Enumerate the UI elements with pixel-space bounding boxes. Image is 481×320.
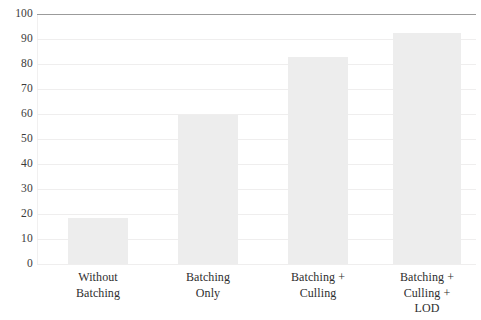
y-tick-label: 50 — [3, 133, 33, 145]
bar-chart: 100 90 80 70 60 50 40 30 20 10 0 Without… — [0, 0, 481, 320]
x-tick-label-line: Only — [153, 286, 263, 302]
x-tick-label-batching-culling: Batching + Culling — [263, 270, 373, 301]
bar-without-batching — [68, 218, 128, 264]
x-tick-label-line: Culling — [263, 286, 373, 302]
y-tick-label: 60 — [3, 108, 33, 120]
y-tick-label: 90 — [3, 33, 33, 45]
y-tick-label: 100 — [3, 8, 33, 20]
x-tick-label-line: Culling + — [372, 286, 481, 302]
x-tick-label-batching-culling-lod: Batching + Culling + LOD — [372, 270, 481, 317]
x-tick-label-line: Batching — [153, 270, 263, 286]
y-tick-label: 70 — [3, 83, 33, 95]
bar-batching-culling — [288, 57, 348, 265]
y-tick-label: 40 — [3, 158, 33, 170]
y-tick-label: 0 — [3, 258, 33, 270]
plot-area — [37, 14, 476, 264]
gridline-100 — [37, 14, 476, 15]
gridline-0 — [37, 264, 476, 265]
y-tick-label: 20 — [3, 208, 33, 220]
bar-batching-culling-lod — [393, 33, 461, 264]
bar-batching-only — [178, 115, 238, 264]
x-tick-label-line: Without — [43, 270, 153, 286]
x-tick-label-batching-only: Batching Only — [153, 270, 263, 301]
y-tick-label: 10 — [3, 233, 33, 245]
x-tick-label-without-batching: Without Batching — [43, 270, 153, 301]
y-axis-labels: 100 90 80 70 60 50 40 30 20 10 0 — [0, 0, 33, 320]
y-tick-label: 80 — [3, 58, 33, 70]
x-tick-label-line: Batching — [43, 286, 153, 302]
x-axis-labels: Without Batching Batching Only Batching … — [37, 270, 476, 320]
x-tick-label-line: Batching + — [372, 270, 481, 286]
x-tick-label-line: Batching + — [263, 270, 373, 286]
y-tick-label: 30 — [3, 183, 33, 195]
x-tick-label-line: LOD — [372, 301, 481, 317]
